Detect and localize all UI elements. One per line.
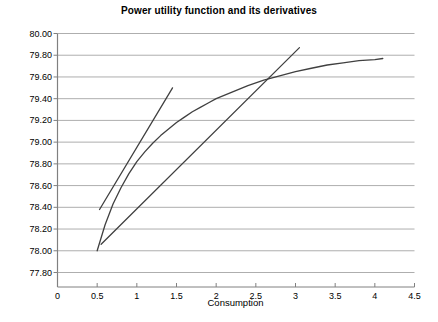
x-axis-title: Consumption: [57, 297, 414, 308]
chart-container: Power utility function and its derivativ…: [0, 0, 438, 322]
x-axis-tick-labels: 00.511.522.533.544.5: [0, 0, 438, 322]
